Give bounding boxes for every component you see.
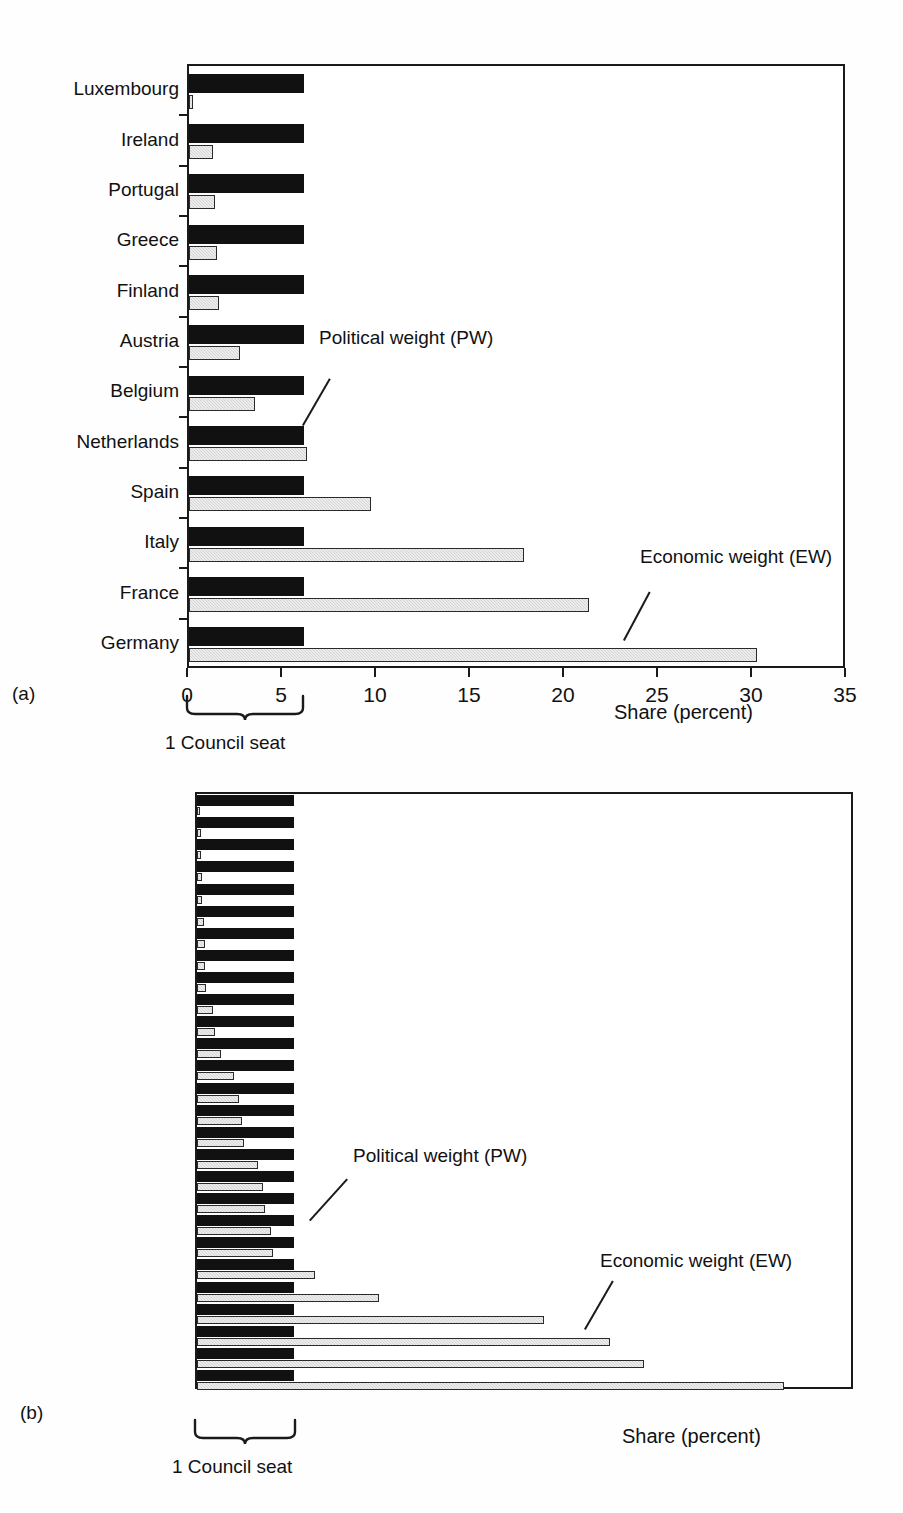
bar-group [197, 1127, 855, 1147]
bar-group [189, 74, 847, 109]
bar-political-weight [197, 928, 294, 939]
bar-economic-weight [189, 346, 240, 360]
bar-economic-weight [197, 873, 202, 881]
bar-economic-weight [197, 1271, 315, 1279]
y-axis-tick [179, 215, 187, 217]
y-axis-label: Portugal [108, 180, 179, 199]
y-axis-label: Austria [120, 331, 179, 350]
bar-political-weight [189, 74, 304, 93]
bar-political-weight [197, 1038, 294, 1049]
bar-economic-weight [197, 1294, 379, 1302]
bar-group [197, 1193, 855, 1213]
bar-economic-weight [189, 296, 219, 310]
y-axis-label: Belgium [110, 381, 179, 400]
bar-political-weight [197, 1083, 294, 1094]
bar-group [197, 1326, 855, 1346]
bar-economic-weight [197, 1050, 221, 1058]
bar-political-weight [189, 577, 304, 596]
annotation-political-weight-b: Political weight (PW) [353, 1146, 527, 1165]
council-seat-label-a: 1 Council seat [165, 733, 285, 752]
bar-group [197, 1060, 855, 1080]
bar-economic-weight [197, 1028, 215, 1036]
x-axis-tick-label: 15 [444, 684, 494, 705]
bar-political-weight [197, 1259, 294, 1270]
bar-political-weight [197, 1171, 294, 1182]
panel-letter-b: (b) [20, 1403, 43, 1422]
y-axis-tick [179, 165, 187, 167]
bar-economic-weight [197, 1338, 610, 1346]
y-axis-label: Germany [101, 633, 179, 652]
council-seat-brace-a [185, 694, 305, 726]
y-axis-tick [179, 366, 187, 368]
bar-economic-weight [197, 1382, 784, 1390]
bar-political-weight [197, 1282, 294, 1293]
bar-economic-weight [197, 851, 201, 859]
bar-economic-weight [197, 1095, 239, 1103]
y-axis-tick [179, 114, 187, 116]
bar-political-weight [197, 1105, 294, 1116]
bar-group [197, 1215, 855, 1235]
bar-political-weight [189, 376, 304, 395]
bar-economic-weight [189, 246, 217, 260]
x-axis-title-b: Share (percent) [622, 1426, 761, 1446]
y-axis-label: Italy [144, 532, 179, 551]
bar-political-weight [189, 174, 304, 193]
bar-economic-weight [189, 195, 215, 209]
bar-group [189, 325, 847, 360]
bar-political-weight [197, 1060, 294, 1071]
bar-economic-weight [197, 1117, 242, 1125]
y-axis-label: Luxembourg [73, 79, 179, 98]
bar-political-weight [197, 1127, 294, 1138]
bar-group [197, 1016, 855, 1036]
y-axis-tick [179, 416, 187, 418]
x-axis-tick [468, 668, 470, 677]
bar-economic-weight [189, 95, 193, 109]
bar-political-weight [197, 839, 294, 850]
bar-group [197, 817, 855, 837]
y-axis-label: Ireland [121, 130, 179, 149]
bar-political-weight [197, 950, 294, 961]
bar-economic-weight [197, 1072, 234, 1080]
bar-political-weight [197, 1016, 294, 1027]
bar-economic-weight [197, 1360, 644, 1368]
bar-economic-weight [197, 1006, 213, 1014]
y-axis-tick [179, 316, 187, 318]
bar-economic-weight [197, 1139, 244, 1147]
bar-group [197, 928, 855, 948]
panel-letter-a: (a) [12, 684, 35, 703]
bar-group [197, 994, 855, 1014]
bar-economic-weight [197, 1227, 271, 1235]
chart-panel-a: GermanyFranceItalySpainNetherlandsBelgiu… [0, 0, 903, 770]
bar-group [197, 1038, 855, 1058]
figure-council-weights: GermanyFranceItalySpainNetherlandsBelgiu… [0, 0, 903, 1513]
bar-group [189, 426, 847, 461]
bar-group [197, 839, 855, 859]
bar-economic-weight [189, 447, 307, 461]
bar-economic-weight [189, 548, 524, 562]
bar-economic-weight [197, 807, 200, 815]
plot-inner-b [197, 794, 851, 1387]
bar-political-weight [197, 861, 294, 872]
bar-political-weight [197, 795, 294, 806]
bar-political-weight [189, 225, 304, 244]
y-axis-tick [179, 517, 187, 519]
bar-economic-weight [189, 598, 589, 612]
x-axis-tick [656, 668, 658, 677]
bar-group [189, 124, 847, 159]
bar-political-weight [197, 906, 294, 917]
bar-group [189, 174, 847, 209]
bar-group [197, 1348, 855, 1368]
y-axis-tick [179, 467, 187, 469]
bar-group [197, 1171, 855, 1191]
x-axis-tick [844, 668, 846, 677]
bar-economic-weight [189, 145, 213, 159]
bar-economic-weight [197, 940, 205, 948]
x-axis-tick [280, 668, 282, 677]
bar-political-weight [189, 527, 304, 546]
bar-economic-weight [197, 962, 205, 970]
bar-political-weight [189, 476, 304, 495]
chart-panel-b: GermanyUnited KingdomFranceItalySpainNet… [0, 770, 903, 1513]
y-axis-label: France [120, 583, 179, 602]
annotation-political-weight-a: Political weight (PW) [319, 328, 493, 347]
bar-economic-weight [197, 896, 202, 904]
